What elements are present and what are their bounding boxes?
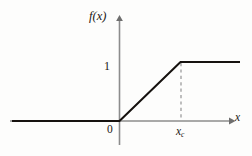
- figure-canvas: [0, 0, 252, 156]
- y-axis-label-text: f(x): [89, 9, 106, 23]
- x-axis-label-text: x: [235, 111, 240, 123]
- y-axis-arrowhead: [116, 15, 123, 21]
- x-axis-label: x: [235, 112, 240, 124]
- y-axis-label: f(x): [89, 10, 106, 23]
- y-tick-label-one: 1: [104, 60, 110, 72]
- xc-tick-label-subscript: c: [181, 130, 184, 139]
- origin-label-text: 0: [107, 123, 113, 135]
- ramp-function-figure: f(x) 1 0 xc x: [0, 0, 252, 156]
- origin-label: 0: [107, 124, 113, 136]
- xc-tick-label: xc: [176, 126, 184, 139]
- ramp-function-curve: [12, 62, 240, 121]
- y-tick-label-one-text: 1: [104, 59, 110, 73]
